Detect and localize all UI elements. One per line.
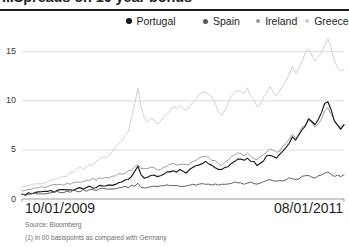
y-axis-tick-label: 15 [2, 46, 16, 56]
legend-label-greece: Greece [314, 15, 348, 27]
legend-item-spain[interactable]: Spain [203, 13, 240, 29]
page-title: ...Spreads on 10 year bonds(1) [2, 0, 200, 5]
series-line-spain [22, 172, 344, 195]
legend-dot-spain [203, 19, 208, 24]
series-line-ireland [22, 107, 344, 190]
y-axis-tick-label: 10 [2, 95, 16, 105]
legend-item-greece[interactable]: Greece [305, 13, 349, 29]
legend-label-spain: Spain [213, 15, 240, 27]
legend-item-ireland[interactable]: Ireland [256, 13, 297, 29]
chart-legend: Portugal Spain Ireland Greece [0, 13, 349, 29]
legend-dot-greece [305, 19, 309, 23]
chart-plot-area: 051015 [0, 29, 349, 205]
legend-dot-portugal [126, 18, 132, 24]
legend-dot-ireland [256, 19, 260, 23]
y-axis-tick-label: 0 [2, 194, 16, 204]
title-divider [0, 9, 349, 11]
x-axis-end-label: 08/01/2011 [274, 200, 343, 216]
y-axis-tick-label: 5 [2, 144, 16, 154]
legend-label-portugal: Portugal [137, 15, 176, 27]
source-note: Source: Bloomberg [25, 221, 81, 228]
line-chart-svg [0, 29, 349, 205]
footnote-note: (1) in 00 basispoints as compared with G… [25, 234, 166, 241]
series-lines-group [22, 39, 344, 196]
chart-title-band: ...Spreads on 10 year bonds(1) [0, 0, 349, 9]
legend-item-portugal[interactable]: Portugal [126, 13, 176, 29]
x-axis-start-label: 10/01/2009 [25, 200, 95, 216]
legend-label-ireland: Ireland [265, 15, 297, 27]
series-line-portugal [22, 102, 344, 195]
